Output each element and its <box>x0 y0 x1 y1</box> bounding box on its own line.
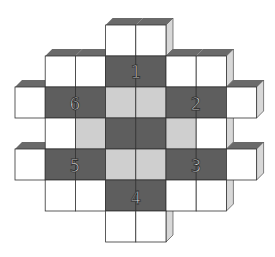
face-number-1: 1 <box>131 62 142 82</box>
cube-face-light <box>166 118 196 149</box>
cube-net-diagram: 123456 1 2 3 4 5 6 <box>0 0 275 257</box>
cube-face-white <box>166 180 196 211</box>
cube-side-face <box>257 142 264 180</box>
cube-face-white <box>136 211 166 242</box>
cell-layer <box>15 25 257 242</box>
cube-face-light <box>106 149 136 180</box>
cube-face-dark <box>106 118 136 149</box>
cube-face-light <box>106 87 136 118</box>
cube-face-white <box>75 180 105 211</box>
cube-face-light <box>136 149 166 180</box>
diagram-canvas: 123456 <box>0 0 275 257</box>
cube-face-white <box>226 149 256 180</box>
face-number-5: 5 <box>70 156 81 176</box>
face-number-6: 6 <box>70 94 81 114</box>
face-number-2: 2 <box>191 94 202 114</box>
cube-face-white <box>15 149 45 180</box>
cube-face-white <box>106 25 136 56</box>
cube-face-light <box>136 87 166 118</box>
cube-face-dark <box>136 118 166 149</box>
face-number-3: 3 <box>191 156 202 176</box>
cube-face-white <box>106 211 136 242</box>
cube-face-white <box>196 118 226 149</box>
cube-side-face <box>257 80 264 118</box>
cube-face-white <box>196 56 226 87</box>
cube-face-white <box>196 180 226 211</box>
face-number-4: 4 <box>131 188 142 208</box>
cube-face-white <box>136 25 166 56</box>
cube-face-light <box>75 118 105 149</box>
cube-face-white <box>226 87 256 118</box>
cube-face-white <box>45 118 75 149</box>
cube-face-white <box>45 56 75 87</box>
cube-face-white <box>166 56 196 87</box>
cube-face-white <box>15 87 45 118</box>
cube-face-white <box>75 56 105 87</box>
cube-face-white <box>45 180 75 211</box>
